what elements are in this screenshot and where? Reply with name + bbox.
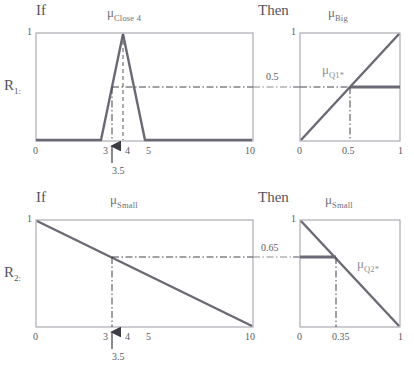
row1-antecedent-plot <box>36 33 300 163</box>
fuzzy-inference-figure: If Then μClose 4 μBig R1: 1 1 0.5 μQ1* 0… <box>0 0 414 378</box>
row1-consequent-plot <box>293 33 400 141</box>
figure-graphics <box>0 0 414 378</box>
row2-antecedent-plot <box>36 220 300 349</box>
row2-consequent-plot <box>293 220 400 327</box>
